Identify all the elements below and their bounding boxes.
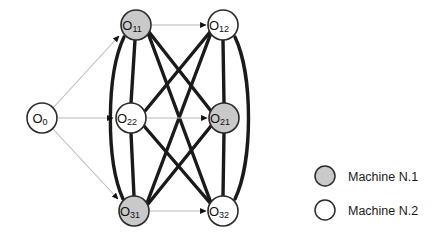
node-o11[interactable]: O11	[121, 10, 151, 40]
node-o32-circle[interactable]	[208, 196, 238, 226]
node-o21-circle[interactable]	[209, 103, 239, 133]
node-o12[interactable]: O12	[208, 10, 238, 40]
legend-label-machine-2: Machine N.2	[348, 204, 418, 218]
node-o12-circle[interactable]	[208, 10, 238, 40]
node-o0-circle[interactable]	[27, 103, 57, 133]
node-o22[interactable]: O22	[116, 103, 146, 133]
node-o22-circle[interactable]	[116, 103, 146, 133]
legend-label-machine-1: Machine N.1	[348, 170, 418, 184]
disjunctive-edge-o12-o21	[223, 40, 224, 103]
disjunctive-edge-o21-o32	[223, 133, 224, 196]
machine2-swatch-icon	[315, 200, 335, 220]
node-o11-circle[interactable]	[121, 10, 151, 40]
machine1-swatch-icon	[315, 166, 335, 186]
node-o0[interactable]: O0	[27, 103, 57, 133]
node-o32[interactable]: O32	[208, 196, 238, 226]
node-o31[interactable]: O31	[119, 196, 149, 226]
disjunctive-graph-figure: O0 O11 O12 O22 O21	[0, 0, 441, 238]
node-o21[interactable]: O21	[209, 103, 239, 133]
node-o31-circle[interactable]	[119, 196, 149, 226]
